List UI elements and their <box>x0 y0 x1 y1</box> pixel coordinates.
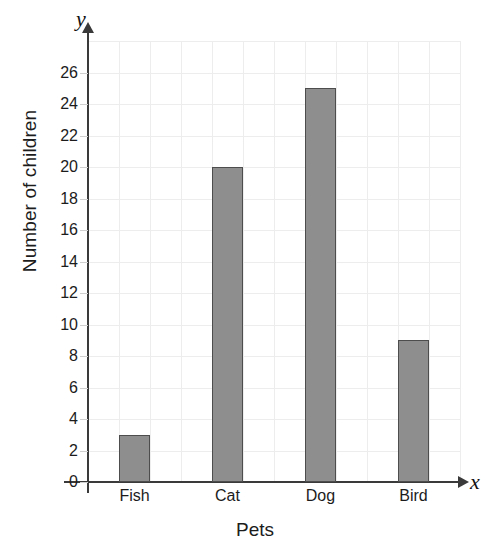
y-axis-tick-mark <box>80 482 88 483</box>
y-axis-tick-label: 20 <box>44 158 78 176</box>
x-axis-label-bird: Bird <box>369 487 459 505</box>
gridline-vertical <box>460 41 461 482</box>
y-axis-tick-label: 26 <box>44 64 78 82</box>
y-axis-tick-mark <box>80 262 88 263</box>
y-axis-tick-label: 4 <box>44 410 78 428</box>
gridline-vertical <box>243 41 244 482</box>
y-axis-tick-mark <box>80 325 88 326</box>
bar-dog <box>305 88 336 482</box>
y-axis-tick-label: 10 <box>44 316 78 334</box>
gridline-vertical <box>150 41 151 482</box>
x-axis-label-dog: Dog <box>276 487 366 505</box>
bar-bird <box>398 340 429 482</box>
bar-cat <box>212 167 243 482</box>
y-axis-title: Number of children <box>19 91 41 291</box>
y-axis-tick-label: 6 <box>44 379 78 397</box>
x-axis-arrow-icon <box>458 476 469 488</box>
y-axis-tick-label: 22 <box>44 127 78 145</box>
y-axis-tick-mark <box>80 388 88 389</box>
y-axis-tick-mark <box>80 419 88 420</box>
y-axis-tick-mark <box>80 230 88 231</box>
y-axis-tick-mark <box>80 73 88 74</box>
x-axis-label-cat: Cat <box>183 487 273 505</box>
y-axis-tick-label: 12 <box>44 284 78 302</box>
bar-chart: Number of children y x 02468101214161820… <box>0 0 496 548</box>
y-axis-tick-mark <box>80 136 88 137</box>
y-axis-tick-label: 8 <box>44 347 78 365</box>
y-axis-arrow-icon <box>82 22 94 33</box>
gridline-vertical <box>181 41 182 482</box>
gridline-vertical <box>274 41 275 482</box>
bar-fish <box>119 435 150 482</box>
y-axis-tick-mark <box>80 199 88 200</box>
gridline-vertical <box>336 41 337 482</box>
x-axis-letter: x <box>470 469 480 495</box>
y-axis-tick-mark <box>80 104 88 105</box>
x-axis-label-fish: Fish <box>90 487 180 505</box>
y-axis-tick-label: 24 <box>44 95 78 113</box>
y-axis-tick-label: 16 <box>44 221 78 239</box>
gridline-vertical <box>119 41 120 482</box>
y-axis-tick-mark <box>80 293 88 294</box>
y-axis-tick-label: 18 <box>44 190 78 208</box>
x-axis-title: Pets <box>195 519 315 541</box>
y-axis-tick-label: 0 <box>44 473 78 491</box>
y-axis-tick-mark <box>80 451 88 452</box>
y-axis-tick-mark <box>80 167 88 168</box>
gridline-vertical <box>367 41 368 482</box>
y-axis-tick-label: 14 <box>44 253 78 271</box>
y-axis-tick-mark <box>80 356 88 357</box>
gridline-vertical <box>429 41 430 482</box>
y-axis-tick-label: 2 <box>44 442 78 460</box>
